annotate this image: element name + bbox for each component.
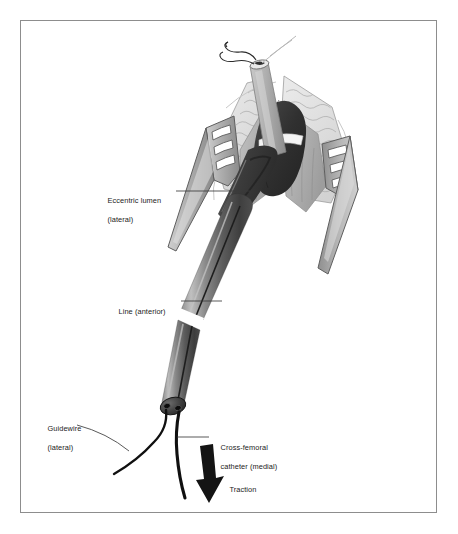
label-line-anterior: Line (anterior) bbox=[110, 297, 166, 326]
label-traction-text: Traction bbox=[229, 485, 256, 494]
catheter-tail-strand bbox=[176, 412, 185, 498]
label-cross-femoral-catheter: Cross-femoral catheter (medial) bbox=[212, 433, 277, 481]
label-guidewire-line2: (lateral) bbox=[48, 443, 74, 452]
label-cross-femoral-line2: catheter (medial) bbox=[221, 462, 278, 471]
suture-tail-lines bbox=[262, 36, 296, 63]
label-eccentric-lumen-line1: Eccentric lumen bbox=[108, 196, 162, 205]
leader-guidewire bbox=[77, 425, 129, 451]
label-traction: Traction bbox=[221, 475, 256, 504]
label-cross-femoral-line1: Cross-femoral bbox=[221, 443, 268, 452]
label-guidewire: Guidewire (lateral) bbox=[39, 414, 81, 462]
label-eccentric-lumen-line2: (lateral) bbox=[108, 215, 134, 224]
label-guidewire-line1: Guidewire bbox=[48, 424, 82, 433]
guidewire-strand bbox=[114, 410, 166, 474]
suture-loop-hook bbox=[220, 42, 256, 64]
label-line-anterior-text: Line (anterior) bbox=[119, 307, 166, 316]
label-eccentric-lumen: Eccentric lumen (lateral) bbox=[99, 186, 161, 234]
figure-root: Eccentric lumen (lateral) Line (anterior… bbox=[0, 0, 458, 534]
self-retaining-retractor-right bbox=[318, 136, 358, 274]
